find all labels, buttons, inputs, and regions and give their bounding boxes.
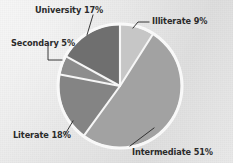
slice-label-university: University 17% (35, 6, 103, 14)
leader-line-illiterate (133, 22, 149, 28)
leader-line-secondary (48, 46, 62, 60)
slice-label-intermediate: Intermediate 51% (132, 148, 213, 156)
leader-line-university (87, 15, 93, 35)
pie-chart-figure: University 17% Secondary 5% Literate 18%… (0, 0, 233, 163)
slice-label-secondary: Secondary 5% (11, 39, 75, 47)
slice-label-literate: Literate 18% (13, 131, 71, 139)
leader-line-intermediate (130, 128, 154, 146)
slice-label-illiterate: Illiterate 9% (152, 17, 207, 25)
